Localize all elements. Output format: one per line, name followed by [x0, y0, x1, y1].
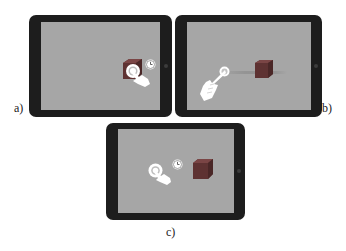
clock-icon [172, 159, 183, 170]
tablet-a [29, 15, 172, 117]
tablet-b-screen [187, 22, 311, 110]
home-button [314, 64, 318, 68]
tablet-c [106, 123, 245, 220]
tablet-a-screen [41, 22, 160, 110]
dragging-hand-icon [198, 68, 228, 102]
cube-icon [192, 158, 214, 180]
home-button [237, 169, 241, 173]
tablet-b [175, 15, 322, 117]
panel-label-b: b) [322, 101, 332, 116]
pointing-hand-icon [152, 167, 172, 185]
home-button [164, 64, 168, 68]
panel-label-c: c) [166, 225, 175, 240]
cube-icon [254, 59, 274, 79]
clock-icon [145, 59, 156, 70]
panel-label-a: a) [14, 101, 23, 116]
pointing-hand-icon [129, 67, 151, 87]
tablet-c-screen [118, 129, 234, 213]
